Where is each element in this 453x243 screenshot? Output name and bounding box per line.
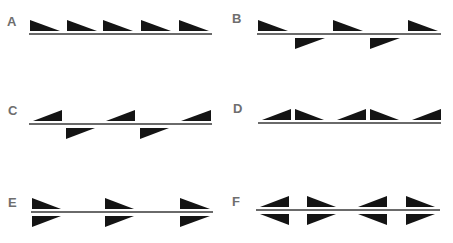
triangle-up-left [141,20,171,31]
triangle-down-left [66,128,95,139]
triangle-up-left [333,20,363,31]
triangle-up-left [408,20,438,31]
panel-a [29,20,212,34]
panel-c [29,110,212,139]
triangle-up-left [105,198,134,209]
panel-label: B [232,11,241,26]
triangle-up-left [30,20,60,31]
triangle-up-left [307,196,336,207]
triangle-up-left [370,109,399,120]
triangle-up-right [260,196,289,207]
panel-label: E [8,195,17,210]
panel-label: A [7,14,16,29]
triangle-down-left [105,216,134,227]
triangle-up-right [337,109,366,120]
triangle-down-left [140,128,169,139]
panel-b [257,20,441,49]
triangle-up-left [295,109,324,120]
triangle-down-right [260,214,289,225]
triangle-up-right [412,109,441,120]
panel-e [31,198,213,227]
panel-label: D [233,101,242,116]
panel-f [256,196,440,225]
triangle-up-left [67,20,97,31]
triangle-up-right [181,110,211,121]
triangle-down-left [370,38,400,49]
panel-label: C [8,103,17,118]
triangle-down-left [295,38,325,49]
triangle-up-left [32,198,61,209]
triangle-down-left [307,214,336,225]
panel-d [258,109,441,123]
triangle-up-left [103,20,133,31]
triangle-up-right [106,110,135,121]
triangle-up-right [262,109,291,120]
triangle-down-left [32,216,61,227]
panel-label: F [232,194,240,209]
triangle-down-left [180,216,210,227]
triangle-up-right [33,110,62,121]
triangle-up-left [406,196,435,207]
triangle-down-left [406,214,435,225]
triangle-up-left [258,20,288,31]
diagram-canvas [0,0,453,243]
triangle-up-left [179,20,209,31]
triangle-up-right [358,196,387,207]
triangle-down-right [358,214,387,225]
triangle-up-left [180,198,210,209]
